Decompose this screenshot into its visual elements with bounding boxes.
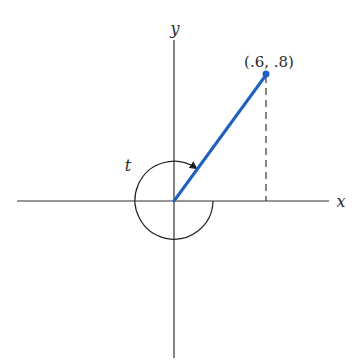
x-axis-label: x	[336, 192, 345, 211]
unit-circle-angle-diagram: (.6, .8) t y x	[0, 0, 353, 363]
y-axis-label: y	[169, 19, 180, 38]
point-label: (.6, .8)	[244, 53, 294, 71]
angle-label: t	[125, 156, 132, 175]
point-marker	[263, 71, 270, 78]
radius-segment	[174, 75, 266, 201]
